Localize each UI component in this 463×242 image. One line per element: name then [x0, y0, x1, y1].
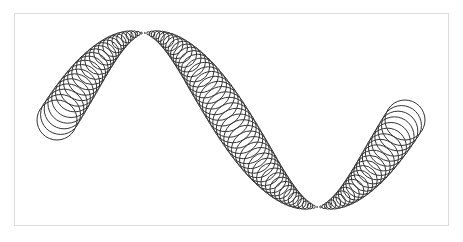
- circle: [320, 206, 322, 208]
- circle: [144, 33, 145, 34]
- circle: [140, 32, 142, 34]
- circle: [317, 206, 318, 207]
- sine-circles-figure: [0, 0, 463, 242]
- circle-group: [37, 31, 425, 210]
- circle: [312, 205, 315, 208]
